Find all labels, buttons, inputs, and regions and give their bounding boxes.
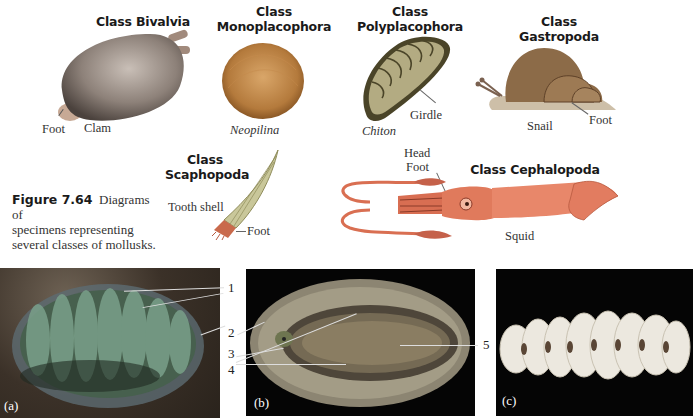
callout-1: 1 [228,280,235,296]
snail-foot-label: Foot [589,113,612,128]
photo-c-chiton-plates: (c) [496,269,693,416]
photo-b-chiton-ventral: (b) [246,269,475,416]
neopilina-label: Neopilina [230,123,279,138]
neopilina-illustration [218,40,308,122]
callout-line-4b-b [236,364,346,365]
caption-line-2: specimens representing [12,222,134,237]
gastropoda-title: Class Gastropoda [500,14,618,44]
chiton-label: Chiton [362,124,396,139]
chiton-photo-shape [0,268,220,418]
squid-label: Squid [505,229,534,244]
callout-2: 2 [228,325,235,341]
photo-a-label: (a) [4,398,18,414]
squid-illustration [334,170,624,250]
polyplacophora-title: Class Polyplacophora [350,4,470,34]
photo-b-label: (b) [254,395,269,411]
monoplacophora-title-line2: Monoplacophora [214,19,334,34]
bivalvia-title: Class Bivalvia [88,14,198,29]
snail-label: Snail [527,119,553,134]
snail-illustration [472,44,622,116]
polyplacophora-title-line2: Polyplacophora [350,19,470,34]
chiton-plates-shape [496,269,693,416]
chiton-ventral-shape [246,269,475,416]
polyplacophora-title-line1: Class [350,4,470,19]
callout-3: 3 [228,346,235,362]
chiton-illustration [358,34,458,124]
figure-number: Figure 7.64 [12,192,93,207]
caption-line-3: several classes of mollusks. [12,237,156,252]
callout-4: 4 [228,362,235,378]
monoplacophora-title-line1: Class [214,4,334,19]
tooth-shell-foot-pointer [236,231,246,232]
tooth-shell-label: Tooth shell [168,200,224,215]
photo-a-chiton-live: (a) [0,268,220,418]
girdle-label: Girdle [410,108,442,123]
callout-5: 5 [483,337,490,353]
photo-c-label: (c) [502,393,516,409]
clam-foot-label: Foot [42,122,65,137]
tooth-shell-foot-label: Foot [247,224,270,239]
monoplacophora-title: Class Monoplacophora [214,4,334,34]
clam-label: Clam [84,121,111,136]
clam-illustration [50,28,200,128]
figure-caption: Figure 7.64 Diagrams of specimens repres… [12,192,162,252]
callout-line-5 [400,345,478,346]
squid-head-label: Head [404,146,430,161]
